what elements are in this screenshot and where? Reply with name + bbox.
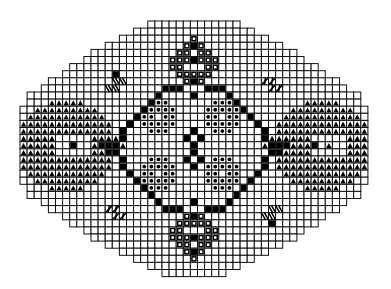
filled-square-icon (191, 199, 197, 205)
filled-square-icon (184, 135, 190, 141)
filled-square-icon (248, 178, 254, 184)
filled-square-icon (191, 128, 197, 134)
filled-square-icon (177, 85, 183, 91)
filled-square-icon (219, 206, 225, 212)
filled-square-icon (170, 85, 176, 91)
filled-square-icon (120, 128, 126, 134)
filled-square-icon (255, 171, 261, 177)
filled-square-icon (205, 85, 211, 91)
filled-square-icon (134, 114, 140, 120)
filled-square-icon (262, 128, 268, 134)
filled-square-icon (262, 156, 268, 162)
filled-square-icon (248, 114, 254, 120)
filled-square-icon (241, 107, 247, 113)
filled-square-icon (134, 178, 140, 184)
filled-square-icon (163, 85, 169, 91)
filled-square-icon (127, 171, 133, 177)
filled-square-icon (120, 135, 126, 141)
filled-square-icon (226, 93, 232, 99)
filled-square-icon (191, 164, 197, 170)
filled-square-icon (141, 185, 147, 191)
filled-square-icon (70, 142, 76, 148)
filled-square-icon (205, 206, 211, 212)
filled-square-icon (120, 164, 126, 170)
filled-square-icon (163, 206, 169, 212)
filled-square-icon (191, 149, 197, 155)
filled-square-icon (191, 78, 197, 84)
filled-square-icon (262, 164, 268, 170)
filled-square-icon (198, 135, 204, 141)
filled-square-icon (120, 156, 126, 162)
filled-square-icon (219, 85, 225, 91)
filled-square-icon (212, 85, 218, 91)
filled-square-icon (191, 57, 197, 63)
filled-square-icon (212, 206, 218, 212)
filled-square-icon (262, 135, 268, 141)
filled-square-icon (241, 185, 247, 191)
filled-square-icon (191, 249, 197, 255)
filled-square-icon (113, 71, 119, 77)
filled-square-icon (191, 235, 197, 241)
knitting-chart (0, 0, 391, 289)
filled-square-icon (184, 156, 190, 162)
filled-square-icon (170, 206, 176, 212)
filled-square-icon (234, 100, 240, 106)
filled-square-icon (191, 213, 197, 219)
filled-square-icon (191, 93, 197, 99)
filled-square-icon (312, 142, 318, 148)
filled-square-icon (226, 199, 232, 205)
filled-square-icon (191, 43, 197, 49)
filled-square-icon (234, 192, 240, 198)
filled-square-icon (198, 156, 204, 162)
filled-square-icon (269, 220, 275, 226)
filled-square-icon (155, 199, 161, 205)
filled-square-icon (148, 192, 154, 198)
filled-square-icon (177, 206, 183, 212)
filled-square-icon (191, 142, 197, 148)
filled-square-icon (155, 93, 161, 99)
filled-square-icon (127, 121, 133, 127)
filled-square-icon (255, 121, 261, 127)
